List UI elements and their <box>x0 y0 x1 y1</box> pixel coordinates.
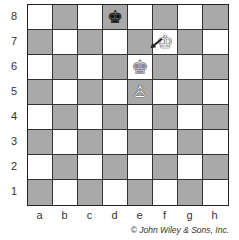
square-d3 <box>103 130 128 155</box>
rank-label-5: 5 <box>8 85 20 97</box>
square-a7 <box>28 30 53 55</box>
rank-label-1: 1 <box>8 185 20 197</box>
square-e1 <box>128 180 153 205</box>
rank-label-3: 3 <box>8 135 20 147</box>
square-d4 <box>103 105 128 130</box>
square-c6 <box>78 55 103 80</box>
square-h1 <box>203 180 228 205</box>
square-e7 <box>128 30 153 55</box>
square-c4 <box>78 105 103 130</box>
rank-label-7: 7 <box>8 35 20 47</box>
square-e8 <box>128 5 153 30</box>
square-d6 <box>103 55 128 80</box>
file-label-e: e <box>127 209 152 221</box>
square-b7 <box>53 30 78 55</box>
square-h5 <box>203 80 228 105</box>
square-g7 <box>178 30 203 55</box>
square-g4 <box>178 105 203 130</box>
square-b2 <box>53 155 78 180</box>
square-c1 <box>78 180 103 205</box>
square-c5 <box>78 80 103 105</box>
square-d1 <box>103 180 128 205</box>
square-e4 <box>128 105 153 130</box>
square-h6 <box>203 55 228 80</box>
square-e2 <box>128 155 153 180</box>
square-c3 <box>78 130 103 155</box>
square-b3 <box>53 130 78 155</box>
file-label-b: b <box>52 209 77 221</box>
faded-king-icon: ♚ <box>131 57 149 77</box>
square-a1 <box>28 180 53 205</box>
square-b4 <box>53 105 78 130</box>
square-f3 <box>153 130 178 155</box>
square-e3 <box>128 130 153 155</box>
black-king-icon: ♚ <box>107 8 123 26</box>
square-g5 <box>178 80 203 105</box>
square-h7 <box>203 30 228 55</box>
file-label-f: f <box>152 209 177 221</box>
square-g3 <box>178 130 203 155</box>
square-g8 <box>178 5 203 30</box>
file-label-a: a <box>27 209 52 221</box>
square-g1 <box>178 180 203 205</box>
file-label-d: d <box>102 209 127 221</box>
square-a8 <box>28 5 53 30</box>
square-f6 <box>153 55 178 80</box>
square-h4 <box>203 105 228 130</box>
square-g2 <box>178 155 203 180</box>
square-d7 <box>103 30 128 55</box>
square-g6 <box>178 55 203 80</box>
rank-label-2: 2 <box>8 160 20 172</box>
square-h3 <box>203 130 228 155</box>
square-f8 <box>153 5 178 30</box>
rank-label-4: 4 <box>8 110 20 122</box>
copyright-text: © John Wiley & Sons, Inc. <box>131 225 229 235</box>
square-e5: ♙ <box>128 80 153 105</box>
square-d5 <box>103 80 128 105</box>
square-b6 <box>53 55 78 80</box>
square-d2 <box>103 155 128 180</box>
square-f5 <box>153 80 178 105</box>
square-a6 <box>28 55 53 80</box>
square-c7 <box>78 30 103 55</box>
square-c2 <box>78 155 103 180</box>
square-c8 <box>78 5 103 30</box>
file-label-h: h <box>202 209 227 221</box>
square-f4 <box>153 105 178 130</box>
square-a4 <box>28 105 53 130</box>
square-d8: ♚ <box>103 5 128 30</box>
square-a2 <box>28 155 53 180</box>
square-a5 <box>28 80 53 105</box>
square-b8 <box>53 5 78 30</box>
rank-label-8: 8 <box>8 10 20 22</box>
square-b5 <box>53 80 78 105</box>
square-f2 <box>153 155 178 180</box>
square-a3 <box>28 130 53 155</box>
chess-board: ♚♔♚♙ <box>27 4 229 206</box>
file-label-g: g <box>177 209 202 221</box>
square-f1 <box>153 180 178 205</box>
square-e6: ♚ <box>128 55 153 80</box>
square-b1 <box>53 180 78 205</box>
square-h2 <box>203 155 228 180</box>
square-h8 <box>203 5 228 30</box>
rank-label-6: 6 <box>8 60 20 72</box>
file-label-c: c <box>77 209 102 221</box>
white-pawn-icon: ♙ <box>133 84 147 100</box>
